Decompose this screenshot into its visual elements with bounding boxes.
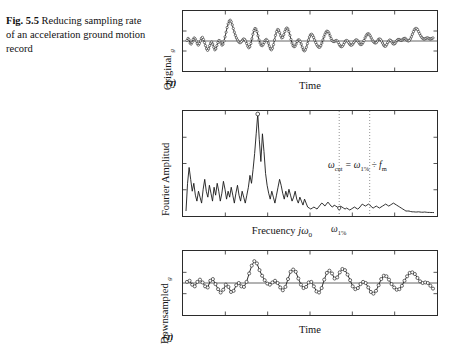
plot-area-downsampled: [182, 250, 438, 316]
x-axis-label-original: Time: [182, 80, 438, 91]
downsampled-record-trace: [183, 251, 437, 315]
original-record-trace: [183, 11, 437, 71]
panel-downsampled-record: Downsampled üg(t) Time: [148, 244, 474, 351]
y-axis-label-original: Original üg(t): [148, 4, 149, 5]
omega-one-percent-label: ω1%: [331, 224, 346, 236]
figure-body: Original üg(t) Time Fourier Amplitud Fre…: [148, 0, 474, 351]
y-axis-label-fourier: Fourier Amplitud: [148, 104, 149, 105]
x-axis-label-downsampled: Time: [182, 324, 438, 335]
cutoff-formula-annotation: ωcut = ω1% ÷ fm: [328, 160, 387, 172]
panel-original-record: Original üg(t) Time: [148, 4, 474, 104]
y-axis-label-downsampled: Downsampled üg(t): [148, 244, 149, 245]
plot-area-fourier: [182, 110, 438, 217]
plot-area-original: [182, 10, 438, 72]
figure-number: Fig. 5.5: [6, 15, 39, 26]
x-axis-label-fourier: Frecuency jω0: [182, 225, 382, 239]
fourier-spectrum-trace: [183, 111, 437, 216]
panel-fourier-spectrum: Fourier Amplitud Frecuency jω0 ω1% ωcut …: [148, 104, 474, 244]
figure-caption: Fig. 5.5 Reducing sampling rate of an ac…: [6, 14, 148, 57]
